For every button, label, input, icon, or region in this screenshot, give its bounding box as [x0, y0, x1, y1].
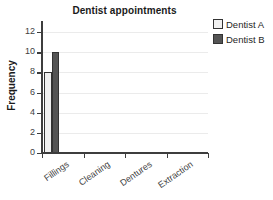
y-tick-label: 2: [5, 127, 35, 137]
legend-swatch-icon: [213, 34, 223, 44]
gridline: [42, 52, 208, 53]
y-axis-line: [41, 21, 43, 154]
bar: [52, 52, 59, 153]
x-tick-mark: [208, 153, 209, 158]
y-tick-mark: [37, 153, 41, 154]
y-tick-mark: [37, 72, 41, 73]
plot-area: [42, 22, 208, 153]
y-tick-label: 8: [5, 66, 35, 76]
y-tick-mark: [37, 32, 41, 33]
x-tick-mark: [42, 153, 43, 158]
y-tick-label: 10: [5, 46, 35, 56]
legend-item[interactable]: Dentist A: [213, 17, 273, 31]
x-tick-mark: [167, 153, 168, 158]
x-tick-mark: [125, 153, 126, 158]
y-tick-mark: [37, 133, 41, 134]
y-tick-mark: [37, 93, 41, 94]
chart-legend: Dentist ADentist B: [213, 17, 273, 47]
y-tick-label: 0: [5, 147, 35, 157]
legend-swatch-icon: [213, 19, 223, 29]
legend-item[interactable]: Dentist B: [213, 32, 273, 46]
gridline: [42, 93, 208, 94]
x-tick-mark: [84, 153, 85, 158]
gridline: [42, 72, 208, 73]
legend-label: Dentist A: [226, 19, 264, 30]
y-tick-mark: [37, 52, 41, 53]
y-tick-label: 12: [5, 26, 35, 36]
gridline: [42, 113, 208, 114]
y-tick-label: 4: [5, 107, 35, 117]
chart-title: Dentist appointments: [41, 5, 208, 16]
y-tick-label: 6: [5, 87, 35, 97]
legend-label: Dentist B: [226, 34, 265, 45]
bar: [44, 72, 51, 153]
y-tick-mark: [37, 113, 41, 114]
bar-chart: Dentist appointments Frequency 024681012…: [0, 0, 273, 200]
gridline: [42, 32, 208, 33]
gridline: [42, 133, 208, 134]
